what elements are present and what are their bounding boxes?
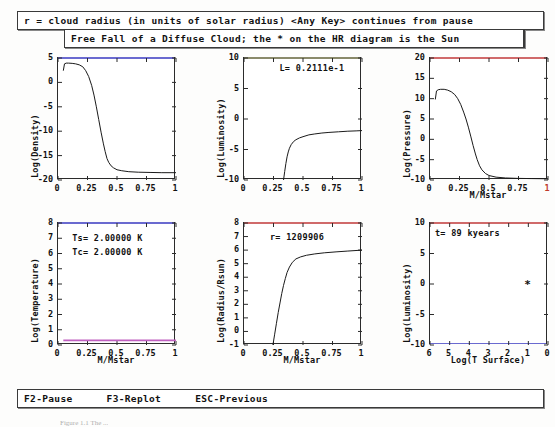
xtick-label-density-0: 0 — [54, 183, 59, 193]
plot-area-radius: r= 1209906 — [243, 222, 361, 344]
title-banner: Free Fall of a Diffuse Cloud; the * on t… — [64, 29, 525, 48]
xaxis-title-pressure: M/Mstar — [429, 190, 547, 200]
xtick-label-luminosity-mass-1: 0.25 — [262, 183, 282, 193]
xtick-label-luminosity-mass-3: 0.75 — [321, 183, 341, 193]
annotation-radius-0: r= 1209906 — [270, 232, 324, 242]
plot-area-luminosity-mass: L= 0.2111e-1 — [243, 57, 361, 179]
xtick-label-density-1: 0.25 — [76, 183, 96, 193]
plot-area-density — [57, 57, 175, 179]
xaxis-title-radius: M/Mstar — [243, 355, 361, 365]
ytick-label-density-0: 5 — [25, 52, 53, 62]
plot-canvas-density — [58, 58, 176, 180]
key-f3-replot[interactable]: F3-Replot — [107, 393, 162, 404]
yaxis-title-pressure: Log(Pressure) — [402, 109, 412, 178]
ytick-label-pressure-0: 20 — [397, 52, 425, 62]
title-banner-text: Free Fall of a Diffuse Cloud; the * on t… — [71, 33, 459, 44]
key-esc-previous[interactable]: ESC-Previous — [195, 393, 268, 404]
key-f2-pause[interactable]: F2-Pause — [24, 393, 73, 404]
xtick-label-density-3: 0.75 — [135, 183, 155, 193]
ytick-label-temperature-1: 7 — [25, 232, 53, 242]
data-curve-radius — [273, 250, 362, 345]
ytick-label-hr-diagram-1: 5 — [397, 248, 425, 258]
plot-canvas-luminosity-mass — [244, 58, 362, 180]
annotation-temperature-0: Ts= 2.00000 K — [72, 233, 142, 243]
xaxis-title-hr-diagram: Log(T Surface) — [429, 355, 547, 365]
annotation-hr-diagram-0: t= 89 kyears — [435, 228, 500, 238]
function-key-bar[interactable]: F2-Pause F3-Replot ESC-Previous — [17, 389, 544, 408]
status-banner-top-text: r = cloud radius (in units of solar radi… — [24, 15, 473, 26]
xtick-label-density-4: 1 — [172, 183, 177, 193]
xaxis-title-temperature: M/Mstar — [57, 355, 175, 365]
yaxis-title-radius: Log(Radius/Rsun) — [216, 258, 226, 343]
plot-area-hr-diagram: *t= 89 kyears — [429, 222, 547, 344]
status-banner-top: r = cloud radius (in units of solar radi… — [17, 11, 544, 30]
plot-area-temperature: Ts= 2.00000 KTc= 2.00000 K — [57, 222, 175, 344]
ytick-label-luminosity-mass-1: 5 — [211, 83, 239, 93]
ytick-label-pressure-1: 15 — [397, 72, 425, 82]
ytick-label-radius-1: 7 — [211, 231, 239, 241]
yaxis-title-density: Log(Density) — [30, 114, 40, 178]
ytick-label-radius-2: 6 — [211, 244, 239, 254]
xtick-label-luminosity-mass-2: 0.5 — [294, 183, 309, 193]
ytick-label-density-1: 0 — [25, 76, 53, 86]
ytick-label-luminosity-mass-0: 10 — [211, 52, 239, 62]
annotation-temperature-1: Tc= 2.00000 K — [72, 247, 142, 257]
ytick-label-temperature-0: 8 — [25, 217, 53, 227]
figure-caption: Figure 1.1 The ... — [60, 419, 108, 427]
yaxis-title-temperature: Log(Temperature) — [30, 258, 40, 343]
ytick-label-temperature-2: 6 — [25, 248, 53, 258]
data-curve-pressure — [435, 89, 548, 178]
data-curve-luminosity-mass — [284, 131, 362, 180]
hr-marker-sun: * — [524, 279, 531, 290]
xtick-label-luminosity-mass-0: 0 — [240, 183, 245, 193]
ytick-label-hr-diagram-0: 10 — [397, 217, 425, 227]
ytick-label-density-2: -5 — [25, 101, 53, 111]
plot-canvas-pressure — [430, 58, 548, 180]
annotation-luminosity-mass-0: L= 0.2111e-1 — [279, 63, 344, 73]
data-curve-density — [63, 63, 176, 173]
yaxis-title-hr-diagram: Log(Luminosity) — [402, 263, 412, 343]
ytick-label-radius-0: 8 — [211, 217, 239, 227]
yaxis-title-luminosity-mass: Log(Luminosity) — [216, 98, 226, 178]
xtick-label-luminosity-mass-4: 1 — [358, 183, 363, 193]
plot-area-pressure — [429, 57, 547, 179]
xtick-label-density-2: 0.5 — [108, 183, 123, 193]
ytick-label-pressure-2: 10 — [397, 93, 425, 103]
